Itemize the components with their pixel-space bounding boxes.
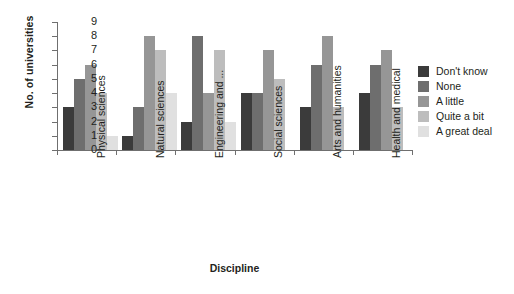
legend-swatch <box>418 126 429 137</box>
legend-swatch <box>418 81 429 92</box>
bar <box>241 93 252 150</box>
bar <box>181 122 192 150</box>
legend-item: Quite a bit <box>418 109 492 123</box>
chart-legend: Don't knowNoneA littleQuite a bitA great… <box>418 64 492 139</box>
y-axis-tick <box>52 122 57 123</box>
x-axis-tick <box>175 150 176 155</box>
bar-group <box>181 22 236 150</box>
legend-swatch <box>418 96 429 107</box>
legend-label: A great deal <box>436 126 492 137</box>
x-axis-category-label: Arts and humanities <box>332 65 343 158</box>
legend-label: None <box>436 81 461 92</box>
y-axis-tick-label: 8 <box>67 30 97 41</box>
x-axis-category-label: Natural sciences <box>155 80 166 158</box>
x-axis-category-label: Engineering and ... <box>214 70 225 158</box>
y-axis-tick <box>52 50 57 51</box>
legend-label: A little <box>436 96 464 107</box>
y-axis-line <box>57 22 58 150</box>
legend-label: Don't know <box>436 66 488 77</box>
legend-swatch <box>418 66 429 77</box>
y-axis-tick-label: 5 <box>67 73 97 84</box>
x-axis-category-label: Social sciences <box>273 86 284 158</box>
y-axis-tick-label: 0 <box>67 144 97 155</box>
y-axis-tick-label: 4 <box>67 87 97 98</box>
bar-group <box>359 22 414 150</box>
x-axis-tick <box>412 150 413 155</box>
bar-group <box>241 22 296 150</box>
bar <box>133 107 144 150</box>
bar-group <box>300 22 355 150</box>
y-axis-tick <box>52 107 57 108</box>
legend-item: A little <box>418 94 492 108</box>
x-axis-tick <box>116 150 117 155</box>
bar <box>107 136 118 150</box>
x-axis-tick <box>57 150 58 155</box>
bar-group <box>122 22 177 150</box>
y-axis-tick <box>52 136 57 137</box>
bar <box>166 93 177 150</box>
legend-item: Don't know <box>418 64 492 78</box>
x-axis-title: Discipline <box>57 262 412 274</box>
x-axis-category-label: Health and medical <box>391 68 402 158</box>
y-axis-tick-label: 6 <box>67 59 97 70</box>
x-axis-tick <box>353 150 354 155</box>
y-axis-tick <box>52 22 57 23</box>
x-axis-tick <box>235 150 236 155</box>
bar <box>359 93 370 150</box>
y-axis-tick <box>52 93 57 94</box>
bar <box>370 65 381 150</box>
x-axis-tick <box>294 150 295 155</box>
bar-chart: No. of universities Discipline Don't kno… <box>0 0 514 294</box>
y-axis-tick <box>52 65 57 66</box>
bar <box>252 93 263 150</box>
y-axis-tick-label: 9 <box>67 16 97 27</box>
bar <box>311 65 322 150</box>
bar <box>122 136 133 150</box>
legend-item: A great deal <box>418 124 492 138</box>
legend-swatch <box>418 111 429 122</box>
plot-area <box>57 22 412 150</box>
y-axis-tick-label: 3 <box>67 101 97 112</box>
y-axis-title: No. of universities <box>23 0 35 132</box>
y-axis-tick-label: 1 <box>67 130 97 141</box>
x-axis-category-label: Physical sciences <box>96 75 107 158</box>
legend-item: None <box>418 79 492 93</box>
bar <box>300 107 311 150</box>
y-axis-tick <box>52 36 57 37</box>
y-axis-tick-label: 2 <box>67 116 97 127</box>
bar <box>192 36 203 150</box>
legend-label: Quite a bit <box>436 111 484 122</box>
y-axis-tick-label: 7 <box>67 44 97 55</box>
y-axis-tick <box>52 79 57 80</box>
bar <box>225 122 236 150</box>
